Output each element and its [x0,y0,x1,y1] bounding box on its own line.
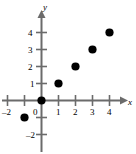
scatter-plot-figure: –2 0 1 2 3 4 4 3 2 1 –2 x y [0,0,136,154]
y-tick-label-4: 4 [28,29,33,38]
x-tick-label-0: 0 [33,108,38,117]
x-tick-label--2: –2 [2,108,11,117]
y-axis-label: y [43,3,47,12]
y-tick-label-1: 1 [30,80,35,89]
x-tick-label-1: 1 [56,108,61,117]
y-tick-label--2: –2 [26,131,35,140]
data-point [88,45,96,53]
data-point [54,79,62,87]
coordinate-plane-svg [0,0,136,154]
data-point-origin [37,96,45,104]
x-axis-label: x [128,98,132,107]
x-tick-label-3: 3 [90,108,95,117]
data-point [105,28,113,36]
x-axis-arrowhead [120,97,128,105]
x-tick-label-2: 2 [73,108,78,117]
y-tick-label-3: 3 [28,46,33,55]
data-point [20,113,28,121]
data-point [71,62,79,70]
x-tick-label-4: 4 [107,108,112,117]
y-tick-label-2: 2 [28,63,33,72]
